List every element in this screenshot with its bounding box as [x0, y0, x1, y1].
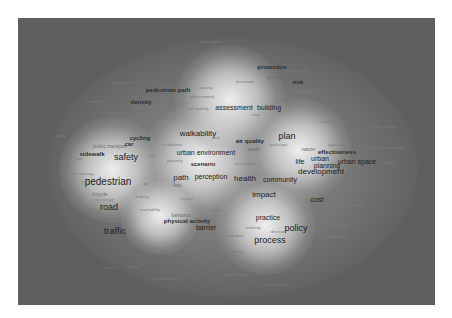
term-label[interactable]: urban sustainability [370, 146, 404, 150]
term-label[interactable]: comfort [87, 100, 100, 104]
term-label[interactable]: community [263, 176, 297, 183]
density-glow [48, 38, 418, 298]
term-label[interactable]: participation [326, 235, 348, 239]
term-label[interactable]: land use [160, 81, 179, 86]
term-label[interactable]: behavior [171, 213, 190, 218]
term-label[interactable]: risk [81, 180, 87, 184]
term-label[interactable]: impact [252, 191, 276, 199]
term-label[interactable]: pedestrian [85, 177, 132, 187]
term-label[interactable]: plan [278, 132, 295, 141]
term-label[interactable]: assessment [215, 104, 252, 111]
term-label[interactable]: map [252, 113, 260, 117]
term-label[interactable]: public transport [93, 144, 127, 149]
term-label[interactable]: questionnaire [225, 273, 249, 277]
term-label[interactable]: exposure [290, 69, 306, 73]
term-label[interactable]: respect [180, 197, 193, 201]
term-label[interactable]: accessibility [234, 162, 255, 166]
term-label[interactable]: bicycle [92, 192, 107, 197]
term-label[interactable]: walking [135, 195, 148, 199]
term-label[interactable]: development [298, 168, 344, 176]
term-label[interactable]: enhancement [190, 95, 214, 99]
term-label[interactable]: disturbance [112, 81, 133, 85]
term-label[interactable]: practice [256, 214, 281, 221]
term-label[interactable]: new york [122, 116, 138, 120]
term-label[interactable]: health [234, 175, 256, 183]
term-label[interactable]: authority [245, 226, 260, 230]
term-label[interactable]: transformation [152, 277, 178, 281]
term-label[interactable]: safety [114, 153, 138, 162]
density-peak [175, 45, 285, 155]
term-label[interactable]: park [212, 136, 220, 140]
term-label[interactable]: air pollution [162, 143, 182, 147]
term-label[interactable]: active [109, 111, 119, 115]
term-label[interactable]: sidewalk [79, 151, 104, 157]
term-label[interactable]: car [124, 141, 133, 147]
term-label[interactable]: air quality [236, 138, 264, 144]
term-label[interactable]: flow [173, 183, 182, 188]
term-label[interactable]: urban space [338, 158, 377, 165]
term-label[interactable]: proximity [167, 159, 183, 163]
term-label[interactable]: society [306, 207, 318, 211]
term-label[interactable]: length [146, 246, 157, 250]
term-label[interactable]: soft mobility [187, 107, 208, 111]
term-label[interactable]: policy [284, 224, 307, 233]
term-label[interactable]: social [104, 266, 114, 270]
term-label[interactable]: protection [257, 64, 286, 70]
term-label[interactable]: traffic [104, 227, 126, 236]
density-map: urban growthprotectionexposuregreen infr… [18, 18, 435, 305]
term-label[interactable]: perception [195, 173, 228, 180]
term-label[interactable]: demand [352, 204, 366, 208]
term-label[interactable]: technology [327, 223, 346, 227]
term-label[interactable]: improvement [134, 106, 157, 110]
term-label[interactable]: activity [127, 265, 139, 269]
term-label[interactable]: landscape [269, 143, 287, 147]
term-label[interactable]: nature [301, 147, 315, 152]
term-label[interactable]: disability [228, 250, 243, 254]
term-label[interactable]: trail [149, 154, 155, 158]
term-label[interactable]: urban growth [199, 40, 222, 44]
term-label[interactable]: quality [55, 134, 67, 138]
term-label[interactable]: capacity [198, 86, 213, 90]
term-label[interactable]: decision [271, 230, 286, 234]
term-label[interactable]: scenario [191, 161, 216, 167]
term-label[interactable]: cost [311, 196, 324, 203]
term-label[interactable]: road [100, 203, 118, 212]
term-label[interactable]: pedestrian path [146, 87, 191, 93]
term-label[interactable]: urban [311, 155, 329, 162]
term-label[interactable]: green infrastructure [267, 75, 310, 80]
term-label[interactable]: barrier [196, 224, 216, 231]
term-label[interactable]: opportunity [328, 143, 348, 147]
term-label[interactable]: urban environment [177, 149, 235, 156]
term-label[interactable]: water [248, 147, 260, 152]
term-label[interactable]: risk [293, 79, 304, 85]
term-label[interactable]: vulnerability [319, 120, 340, 124]
term-label[interactable]: walkability [180, 130, 216, 138]
term-label[interactable]: mitigation [296, 90, 313, 94]
term-label[interactable]: human health [264, 283, 288, 287]
term-label[interactable]: building [257, 104, 281, 111]
term-label[interactable]: station [156, 116, 168, 120]
term-label[interactable]: reachability [140, 208, 160, 212]
term-label[interactable]: climate change [370, 125, 397, 129]
term-label[interactable]: process [254, 236, 286, 245]
term-label[interactable]: resilience [380, 161, 397, 165]
term-label[interactable]: individual [227, 234, 244, 238]
term-label[interactable]: life [296, 158, 305, 165]
term-label[interactable]: prevention [236, 80, 255, 84]
term-label[interactable]: bus [76, 157, 82, 161]
term-label[interactable]: dk [144, 182, 148, 186]
term-label[interactable]: distance [186, 247, 201, 251]
term-label[interactable]: vitality [210, 208, 221, 212]
